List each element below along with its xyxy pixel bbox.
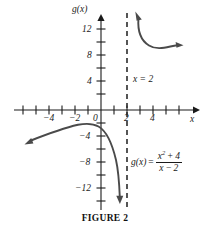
curve-right-branch-path bbox=[138, 18, 177, 48]
x-tick-label-minus-4: −4 bbox=[43, 114, 54, 124]
y-tick-label-8: 8 bbox=[87, 51, 92, 61]
function-formula-prefix: g(x) bbox=[131, 158, 146, 168]
y-axis-arrowhead bbox=[97, 14, 104, 21]
curve-right-branch-right-arrowhead bbox=[176, 42, 184, 48]
function-formula-equals: = bbox=[148, 158, 153, 168]
curve-left-branch-left-arrowhead bbox=[25, 138, 34, 145]
curve-right-branch-up-arrowhead bbox=[135, 12, 142, 21]
numerator-plus-sign: + bbox=[168, 151, 173, 161]
x-axis-arrowhead bbox=[193, 106, 200, 113]
denominator-variable: x bbox=[159, 163, 163, 173]
y-tick-label-minus-8: −8 bbox=[79, 158, 90, 168]
denominator-constant: 2 bbox=[174, 163, 179, 173]
x-axis-label: x bbox=[190, 115, 194, 125]
denominator-minus-sign: − bbox=[166, 163, 171, 173]
function-formula-annotation: g(x) = x2 + 4 x − 2 bbox=[131, 152, 182, 173]
figure-caption: FIGURE 2 bbox=[0, 213, 210, 223]
y-tick-label-4: 4 bbox=[87, 77, 92, 87]
curve-left-branch-down-arrowhead bbox=[116, 196, 123, 204]
curve-right-branch bbox=[135, 12, 183, 49]
graph-plot-area bbox=[0, 0, 210, 210]
figure-container: g(x) x 12 8 4 −4 −8 −12 −4 −2 0 2 4 x = … bbox=[0, 0, 210, 233]
function-formula-denominator: x − 2 bbox=[156, 164, 182, 174]
y-tick-label-minus-12: −12 bbox=[75, 184, 91, 194]
x-tick-label-2: 2 bbox=[124, 114, 129, 124]
x-tick-label-4: 4 bbox=[150, 114, 155, 124]
y-axis bbox=[97, 14, 106, 210]
x-axis bbox=[14, 106, 200, 115]
numerator-exponent: 2 bbox=[162, 149, 165, 156]
y-tick-label-minus-4: −4 bbox=[79, 132, 90, 142]
curve-left-branch bbox=[25, 124, 124, 204]
x-tick-label-minus-2: −2 bbox=[69, 114, 80, 124]
y-axis-label: g(x) bbox=[72, 5, 87, 15]
x-tick-label-0: 0 bbox=[93, 114, 98, 124]
y-tick-label-12: 12 bbox=[82, 25, 92, 35]
asymptote-annotation: x = 2 bbox=[133, 75, 153, 85]
numerator-constant: 4 bbox=[175, 151, 180, 161]
function-formula-numerator: x2 + 4 bbox=[156, 152, 182, 162]
graph-svg bbox=[0, 0, 210, 210]
function-formula-fraction: x2 + 4 x − 2 bbox=[156, 152, 182, 173]
